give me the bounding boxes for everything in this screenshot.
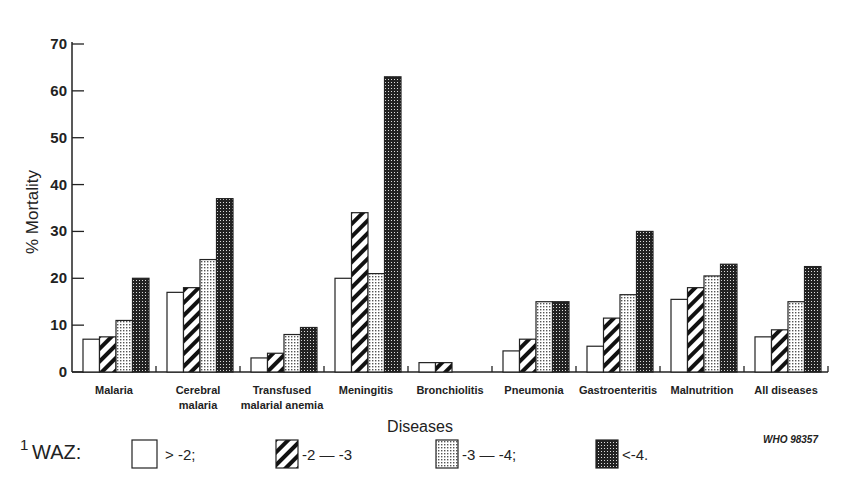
x-tick-label: Transfused (253, 384, 312, 396)
y-tick-label: 20 (50, 269, 67, 286)
bar (788, 302, 805, 372)
legend-title: WAZ: (32, 441, 81, 463)
x-tick-label: Cerebral (176, 384, 221, 396)
x-tick-label: malaria (179, 399, 218, 411)
x-tick-label: Malaria (95, 384, 134, 396)
x-tick-label: Malnutrition (671, 384, 734, 396)
x-tick-label: Bronchiolitis (416, 384, 483, 396)
bar (251, 358, 268, 372)
bar (755, 337, 772, 372)
x-tick-label: Gastroenteritis (579, 384, 657, 396)
y-tick-label: 0 (59, 363, 67, 380)
bar (352, 213, 369, 372)
bar (704, 276, 721, 372)
footnote-marker: 1 (20, 436, 28, 453)
bar (335, 278, 352, 372)
legend-swatch (596, 440, 618, 468)
legend-swatch (132, 440, 157, 468)
y-tick-label: 10 (50, 316, 67, 333)
bar (604, 318, 621, 372)
legend: 1WAZ:> -2;-2 — -3-3 — -4;<-4. (20, 436, 648, 468)
bar (620, 295, 637, 372)
bar (385, 77, 402, 372)
bar (671, 299, 688, 372)
bars (83, 77, 821, 372)
x-tick-label: Meningitis (339, 384, 393, 396)
bar (268, 353, 285, 372)
bar (772, 330, 789, 372)
figure-id: WHO 98357 (763, 434, 818, 445)
bar (536, 302, 553, 372)
bar-chart: 010203040506070 % MortalityMalariaCerebr… (0, 0, 855, 495)
y-tick-label: 60 (50, 82, 67, 99)
y-tick-label: 30 (50, 222, 67, 239)
bar (100, 337, 117, 372)
bar (116, 320, 133, 372)
legend-label: > -2; (165, 446, 195, 463)
bar (200, 260, 217, 372)
bar (553, 302, 570, 372)
x-axis-label: Diseases (387, 418, 453, 435)
legend-swatch (276, 440, 298, 468)
x-tick-label: malarial anemia (241, 399, 324, 411)
bar (184, 288, 201, 372)
bar (721, 264, 738, 372)
bar (368, 274, 385, 372)
bar (301, 327, 318, 372)
x-tick-label: All diseases (754, 384, 818, 396)
legend-label: -2 — -3 (302, 446, 352, 463)
y-tick-label: 40 (50, 176, 67, 193)
bar (419, 363, 436, 372)
bar (688, 288, 705, 372)
y-tick-label: 70 (50, 35, 67, 52)
bar (805, 267, 822, 372)
legend-label: -3 — -4; (462, 446, 516, 463)
bar (217, 199, 234, 372)
bar (503, 351, 520, 372)
y-tick-label: 50 (50, 129, 67, 146)
bar (520, 339, 537, 372)
bar (284, 335, 301, 372)
bar (587, 346, 604, 372)
y-axis-label: % Mortality (23, 169, 42, 254)
legend-label: <-4. (622, 446, 648, 463)
legend-swatch (436, 440, 458, 468)
bar (133, 278, 150, 372)
bar (436, 363, 453, 372)
bar (83, 339, 100, 372)
bar (637, 231, 654, 372)
x-tick-label: Pneumonia (504, 384, 564, 396)
bar (167, 292, 184, 372)
